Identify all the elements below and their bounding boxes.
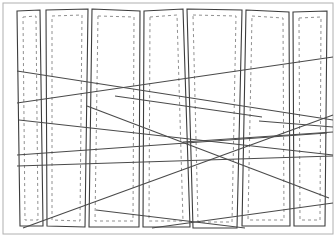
diagram-canvas [0,0,336,237]
figure-background [0,0,336,237]
panel-layout-figure [0,0,336,237]
